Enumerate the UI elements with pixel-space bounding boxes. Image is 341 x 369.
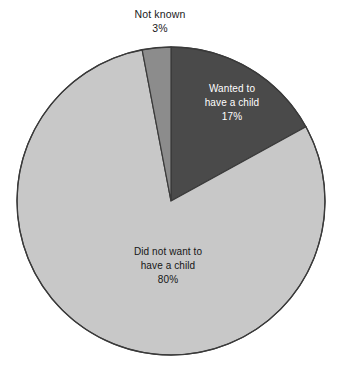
- label-wanted-percent: 17%: [182, 110, 282, 124]
- label-wanted-line1: Wanted to: [182, 82, 282, 96]
- label-did-not-want-line2: have a child: [108, 259, 228, 273]
- label-wanted-line2: have a child: [182, 96, 282, 110]
- label-not-known: Not known 3%: [100, 8, 220, 35]
- label-did-not-want-line1: Did not want to: [108, 245, 228, 259]
- label-wanted: Wanted to have a child 17%: [182, 82, 282, 124]
- label-not-known-percent: 3%: [100, 22, 220, 36]
- label-not-known-name: Not known: [100, 8, 220, 22]
- pie-chart: Not known 3% Wanted to have a child 17% …: [0, 0, 341, 369]
- label-did-not-want: Did not want to have a child 80%: [108, 245, 228, 287]
- pie-chart-graphic: [0, 0, 341, 369]
- label-did-not-want-percent: 80%: [108, 273, 228, 287]
